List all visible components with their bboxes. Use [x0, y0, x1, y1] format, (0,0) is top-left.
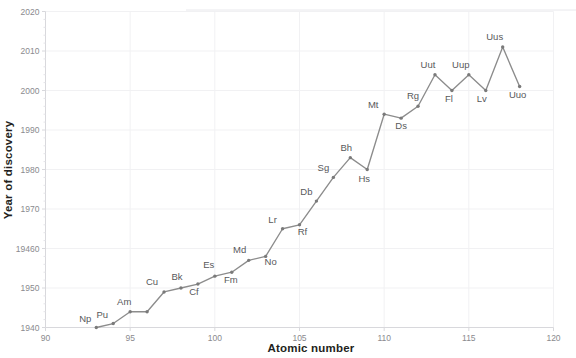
y-axis-title: Year of discovery — [2, 120, 14, 219]
x-tick-label: 120 — [546, 333, 560, 343]
data-point-label: Rf — [298, 226, 308, 237]
x-axis-title: Atomic number — [268, 342, 355, 354]
data-point-label: Uut — [421, 59, 436, 70]
y-tick-label: 2020 — [21, 7, 40, 17]
x-tick-label: 90 — [41, 333, 51, 343]
data-point-label: Md — [233, 244, 246, 255]
data-point — [366, 168, 369, 171]
data-point — [162, 290, 165, 293]
gridlines — [46, 12, 554, 328]
data-point-label: No — [265, 256, 277, 267]
data-point — [433, 73, 436, 76]
data-point — [112, 322, 115, 325]
data-point-label: Hs — [358, 173, 370, 184]
data-point — [332, 176, 335, 179]
x-tick-label: 115 — [462, 333, 476, 343]
data-point-labels: NpPuAmCuBkCfEsFmMdNoLrRfDbSgBhHsMtDsRgUu… — [79, 31, 526, 323]
data-point — [95, 326, 98, 329]
y-tick-label: 1950 — [21, 283, 40, 293]
data-point-label: Rg — [407, 90, 419, 101]
chart-canvas: 1940195019460197019801990200020102020 90… — [0, 0, 576, 358]
data-point — [247, 259, 250, 262]
x-tick-label: 110 — [377, 333, 391, 343]
data-point-label: Uus — [486, 31, 503, 42]
data-point-label: Uuo — [509, 89, 526, 100]
data-point — [501, 45, 504, 48]
y-tick-label: 1970 — [21, 204, 40, 214]
data-point — [349, 156, 352, 159]
data-point-label: Mt — [368, 99, 379, 110]
data-point-label: Cf — [189, 286, 199, 297]
x-tick-label: 100 — [208, 333, 222, 343]
x-tick-label: 105 — [292, 333, 306, 343]
x-tick-label: 95 — [125, 333, 135, 343]
data-point — [213, 274, 216, 277]
data-point — [128, 310, 131, 313]
data-point-label: Am — [117, 296, 131, 307]
y-tick-label: 19460 — [16, 244, 40, 254]
data-point-label: Es — [203, 259, 214, 270]
data-point-label: Lv — [477, 93, 487, 104]
data-point — [281, 227, 284, 230]
data-point-label: Lr — [268, 214, 276, 225]
y-tick-label: 2010 — [21, 46, 40, 56]
data-point-label: Bh — [340, 142, 352, 153]
data-point — [382, 113, 385, 116]
y-tick-label: 1980 — [21, 165, 40, 175]
discovery-year-chart: 1940195019460197019801990200020102020 90… — [0, 0, 576, 358]
data-point-label: Fl — [445, 93, 453, 104]
data-point — [467, 73, 470, 76]
y-axis-ticks: 1940195019460197019801990200020102020 — [16, 7, 46, 333]
y-tick-label: 1940 — [21, 323, 40, 333]
data-point-label: Sg — [318, 162, 330, 173]
data-point — [416, 105, 419, 108]
data-point-label: Pu — [96, 309, 108, 320]
data-point-label: Fm — [224, 274, 238, 285]
data-point-label: Uup — [452, 59, 469, 70]
y-tick-label: 2000 — [21, 86, 40, 96]
data-point-label: Cu — [146, 276, 158, 287]
y-tick-label: 1990 — [21, 125, 40, 135]
data-point — [145, 310, 148, 313]
data-point-label: Bk — [171, 271, 182, 282]
x-axis-ticks: 9095100105110115120 — [41, 328, 561, 343]
data-point — [315, 199, 318, 202]
data-point-label: Ds — [395, 120, 407, 131]
data-point-label: Db — [300, 186, 312, 197]
data-point-label: Np — [79, 313, 91, 324]
data-point — [179, 286, 182, 289]
